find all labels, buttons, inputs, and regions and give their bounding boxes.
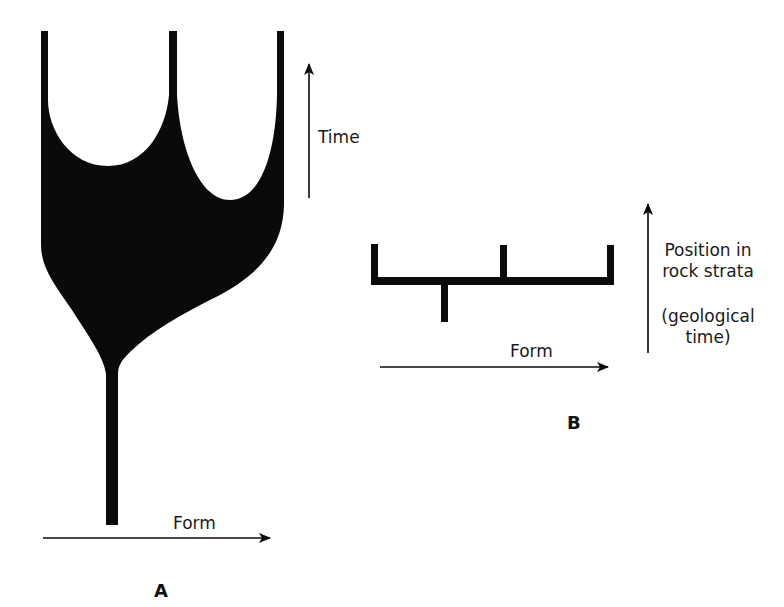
panel-b-y-label-line-2: rock strata [653,261,763,282]
panel-b-y-axis-label: Position in rock strata (geological time… [653,240,763,348]
panel-b-y-label-line-3: (geological [653,306,763,327]
panel-a-x-axis-label: Form [173,513,216,534]
panel-b-x-axis-label: Form [510,341,553,362]
panel-b-y-label-line-4: time) [653,327,763,348]
panel-b-y-label-line-1: Position in [653,240,763,261]
panel-b-label: B [567,412,581,433]
panel-a-y-axis-label: Time [318,127,360,148]
panel-a-lineage-shape [41,31,284,525]
panel-a-label: A [154,580,168,601]
panel-b-lineage-shape [371,244,614,322]
